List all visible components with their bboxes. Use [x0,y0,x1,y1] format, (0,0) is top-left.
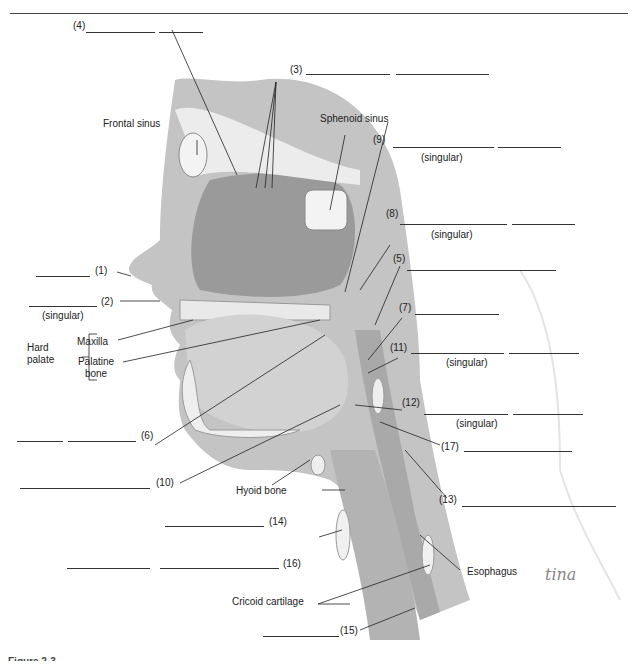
label-cricoid-cartilage: Cricoid cartilage [232,596,304,607]
answer-blank-9a[interactable] [393,147,494,148]
number-11: (11) [390,342,407,353]
answer-blank-8b[interactable] [512,224,575,225]
answer-blank-6b[interactable] [68,441,136,442]
head-sagittal-illustration: tina [0,0,633,664]
number-4: (4) [73,20,85,31]
answer-blank-2[interactable] [29,306,97,307]
label-maxilla: Maxilla [77,336,108,347]
number-17: (17) [441,441,459,452]
answer-blank-7[interactable] [415,314,499,315]
number-2: (2) [101,296,113,307]
answer-blank-9b[interactable] [498,147,561,148]
answer-blank-11a[interactable] [411,353,504,354]
answer-blank-13[interactable] [462,506,616,507]
answer-blank-15[interactable] [263,636,339,637]
answer-blank-3b[interactable] [396,74,489,75]
number-5: (5) [393,253,405,264]
answer-blank-5[interactable] [407,270,556,271]
answer-blank-14[interactable] [165,526,264,527]
answer-blank-8a[interactable] [400,224,507,225]
answer-blank-4a[interactable] [86,32,155,33]
answer-blank-10[interactable] [20,488,150,489]
number-16: (16) [283,558,301,569]
label-hard-palate: Hard palate [27,342,59,366]
answer-blank-6a[interactable] [17,441,63,442]
note-9: (singular) [421,152,463,163]
number-9: (9) [373,134,385,145]
answer-blank-3a[interactable] [306,74,390,75]
answer-blank-16a[interactable] [67,568,150,569]
note-2: (singular) [42,310,84,321]
answer-blank-4b[interactable] [159,32,203,33]
number-15: (15) [340,625,358,636]
note-11: (singular) [446,357,488,368]
label-palatine-bone: Palatine bone [76,356,116,380]
label-esophagus: Esophagus [467,566,517,577]
number-8: (8) [386,208,398,219]
answer-blank-16b[interactable] [160,568,279,569]
artist-signature: tina [545,565,576,584]
number-10: (10) [156,477,174,488]
answer-blank-12a[interactable] [424,414,508,415]
answer-blank-12b[interactable] [513,414,583,415]
number-7: (7) [399,302,411,313]
answer-blank-1[interactable] [36,276,90,277]
number-12: (12) [402,397,420,408]
number-3: (3) [290,64,302,75]
note-12: (singular) [456,418,498,429]
number-6: (6) [141,430,153,441]
answer-blank-17[interactable] [464,451,572,452]
note-8: (singular) [431,229,473,240]
number-14: (14) [269,516,287,527]
answer-blank-11b[interactable] [509,353,579,354]
number-13: (13) [439,494,457,505]
label-sphenoid-sinus: Sphenoid sinus [320,113,388,124]
number-1: (1) [95,265,107,276]
label-frontal-sinus: Frontal sinus [103,118,160,129]
label-hyoid-bone: Hyoid bone [236,485,287,496]
